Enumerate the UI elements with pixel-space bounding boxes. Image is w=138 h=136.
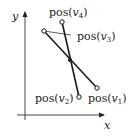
label-v2: pos(v2)	[35, 92, 74, 106]
point-v1	[95, 86, 99, 90]
point-v2	[77, 95, 81, 99]
labels: pos(v4) pos(v3) pos(v2) pos(v1)	[35, 6, 127, 106]
intersection-point	[68, 58, 72, 62]
label-v4: pos(v4)	[49, 6, 88, 20]
point-v4	[60, 20, 64, 24]
label-v1: pos(v1)	[88, 92, 127, 106]
axes: y x	[11, 10, 111, 132]
diagram-canvas: y x pos(v4) pos(v3) pos(v2) pos(v1)	[0, 0, 138, 136]
label-v3: pos(v3)	[77, 30, 116, 44]
x-axis-label: x	[104, 119, 111, 132]
point-v3	[42, 29, 46, 33]
y-axis-label: y	[11, 10, 19, 23]
